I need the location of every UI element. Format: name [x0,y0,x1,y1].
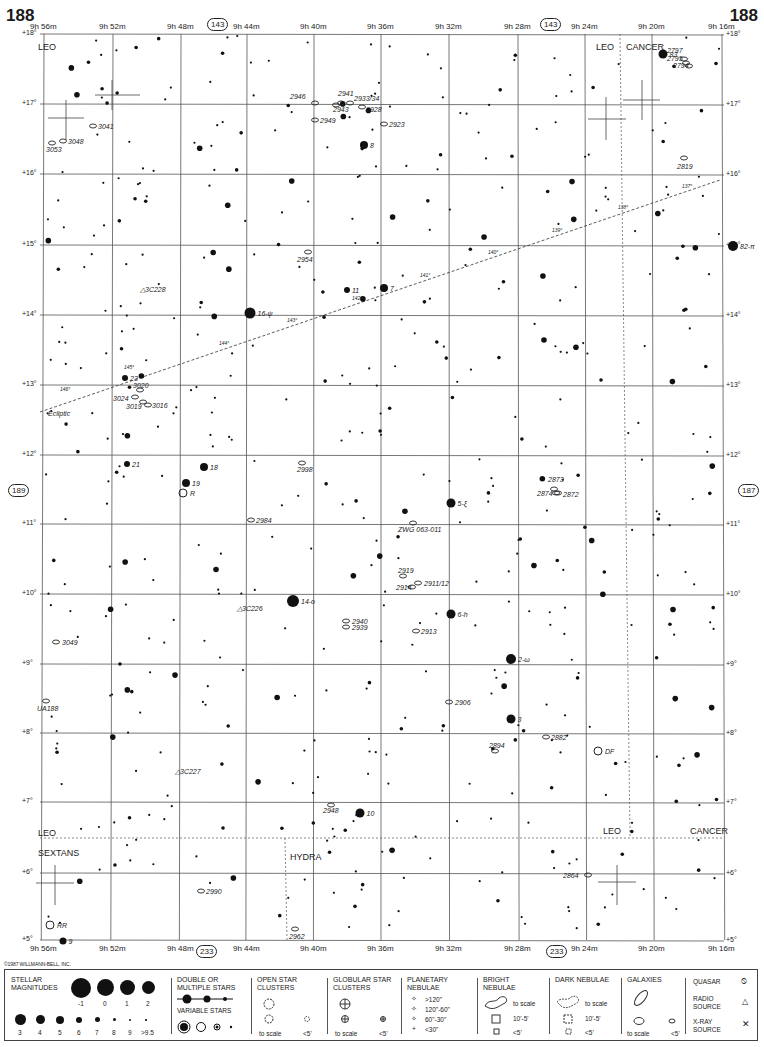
svg-text:2941: 2941 [337,90,354,97]
svg-text:21: 21 [131,461,140,468]
svg-text:138°: 138° [618,204,628,210]
legend-planetary-nebulae: PLANETARY NEBULAE ✧ >120" ✧ 120"-60" ✧ 6… [401,970,477,1040]
mag-6-icon [76,1017,82,1023]
svg-text:2949: 2949 [319,117,336,124]
legend-stellar-magnitudes: STELLAR MAGNITUDES -1 0 1 2 3 4 5 6 7 8 … [5,970,170,1040]
svg-text:19: 19 [192,480,200,487]
legend-dark-nebulae: DARK NEBULAE to scale 10'-5' <5' [549,970,621,1040]
dark-nebula-icon [555,994,585,1038]
svg-text:LEO: LEO [603,826,621,836]
copyright-notice: ©1987 WILLMANN-BELL, INC. [4,961,71,967]
svg-text:LEO: LEO [38,828,56,838]
svg-text:△3C228: △3C228 [139,286,166,293]
svg-text:2939: 2939 [351,624,368,631]
svg-text:2998: 2998 [296,466,313,473]
svg-text:11: 11 [352,287,359,294]
svg-text:3020: 3020 [133,382,149,389]
svg-text:2913: 2913 [420,628,437,635]
legend-galaxies: GALAXIES to scale <5' [621,970,685,1040]
mag-7-icon [95,1017,100,1022]
svg-text:UA188: UA188 [37,705,59,712]
svg-text:2819: 2819 [676,163,693,170]
svg-text:2-ω: 2-ω [517,656,530,663]
svg-text:140°: 140° [488,249,498,255]
svg-text:2946: 2946 [289,93,306,100]
svg-text:R: R [190,490,195,497]
svg-text:16-ψ: 16-ψ [258,310,273,318]
svg-text:2795: 2795 [666,55,683,62]
svg-text:8: 8 [370,142,374,149]
svg-text:3053: 3053 [46,146,62,153]
bright-nebula-icon [483,994,513,1038]
legend-bright-nebulae: BRIGHT NEBULAE to scale 10'-5' <5' [477,970,549,1040]
mag-8-icon [113,1018,116,1021]
svg-text:3: 3 [518,716,522,723]
svg-text:2928: 2928 [365,106,382,113]
legend-double-variable-stars: DOUBLE OR MULTIPLE STARS VARIABLE STARS [171,970,251,1040]
svg-text:139°: 139° [552,227,562,233]
svg-text:2990: 2990 [205,888,222,895]
planetary-nebula-icon: ✧ [411,995,417,1003]
double-star-icon [177,994,237,1004]
svg-text:SEXTANS: SEXTANS [38,848,79,858]
svg-text:2864: 2864 [562,872,579,879]
svg-text:2894: 2894 [488,742,505,749]
svg-text:7: 7 [390,285,395,292]
svg-text:2919: 2919 [397,567,414,574]
svg-text:143°: 143° [287,317,297,323]
mag-4-icon [36,1015,45,1024]
mag-2-icon [142,981,155,994]
svg-text:ZWG 063-011: ZWG 063-011 [397,526,442,533]
svg-text:3049: 3049 [62,639,78,646]
svg-text:2923: 2923 [388,121,405,128]
star-chart: 83882-π16-ψ117232118195-ξ14-o6-h2-ω3109R… [0,0,764,960]
svg-text:2797: 2797 [666,47,684,54]
svg-text:141°: 141° [420,272,430,278]
radio-source-icon: △ [742,998,748,1006]
svg-text:10: 10 [367,810,375,817]
svg-text:△3C226: △3C226 [236,605,263,612]
globular-cluster-icon [337,998,397,1028]
svg-text:2794: 2794 [672,62,689,69]
svg-text:2906: 2906 [454,699,471,706]
legend-globular-clusters: GLOBULAR STAR CLUSTERS to scale <5' [327,970,401,1040]
svg-text:142°: 142° [352,295,362,301]
legend-open-clusters: OPEN STAR CLUSTERS to scale <5' [251,970,327,1040]
svg-text:LEO: LEO [38,42,56,52]
svg-text:5-ξ: 5-ξ [458,500,468,508]
svg-text:DF: DF [605,748,615,755]
svg-text:3019: 3019 [126,403,142,410]
leo-cancer-boundary [620,34,630,838]
svg-text:2984: 2984 [255,517,272,524]
svg-text:82-π: 82-π [740,243,755,250]
variable-star-icon [177,1020,247,1034]
mag-minus1-icon [71,978,91,998]
svg-text:23: 23 [129,375,138,382]
svg-text:CANCER: CANCER [626,42,665,52]
svg-text:2914: 2914 [395,584,412,591]
svg-text:RR: RR [57,922,67,929]
open-cluster-icon [261,998,321,1028]
legend-quasar-radio-xray: QUASAR ⦸ RADIO SOURCE △ X-RAY SOURCE ✕ [685,970,757,1040]
mag-1-icon [120,980,135,995]
mag-9-icon [129,1019,131,1021]
svg-text:3041: 3041 [98,123,114,130]
svg-text:2933/34: 2933/34 [353,95,379,102]
svg-text:3024: 3024 [113,395,129,402]
xray-source-icon: ✕ [742,1020,750,1028]
quasar-icon: ⦸ [741,977,747,985]
svg-text:3016: 3016 [152,402,168,409]
svg-text:2962: 2962 [288,933,305,940]
sextans-hydra-boundary [285,838,287,940]
svg-text:2882: 2882 [550,734,567,741]
svg-text:146°: 146° [60,386,70,392]
mag-95-icon [145,1019,147,1021]
svg-text:14-o: 14-o [301,598,315,605]
map-legend: STELLAR MAGNITUDES -1 0 1 2 3 4 5 6 7 8 … [4,969,758,1041]
svg-text:2948: 2948 [322,807,339,814]
svg-text:137°: 137° [682,183,692,189]
mag-0-icon [97,979,114,996]
svg-text:2954: 2954 [296,256,313,263]
svg-text:9: 9 [69,938,73,945]
svg-text:2872: 2872 [562,491,579,498]
